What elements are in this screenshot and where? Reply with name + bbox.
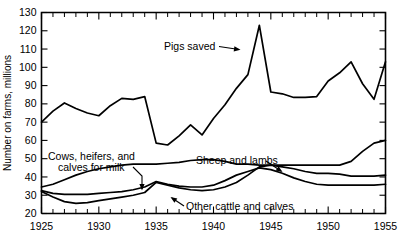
x-tick-label: 1925: [30, 220, 54, 232]
y-axis-title: Number on farms, millions: [2, 55, 13, 171]
x-tick-label: 1955: [374, 220, 398, 232]
y-tick-label: 70: [25, 116, 37, 128]
y-axis-title-text: Number on farms, millions: [2, 55, 13, 171]
line-chart: 2030405060708090100110120130192519301935…: [0, 0, 407, 247]
y-tick-label: 90: [25, 79, 37, 91]
annotation-other-cattle: Other cattle and calves: [186, 200, 293, 212]
y-tick-label: 110: [20, 43, 37, 55]
x-tick-label: 1940: [202, 220, 226, 232]
x-tick-label: 1935: [144, 220, 168, 232]
x-tick-label: 1945: [259, 220, 283, 232]
y-tick-label: 40: [25, 171, 37, 183]
x-tick-label: 1930: [87, 220, 111, 232]
annotation-sheep-and-lambs: Sheep and lambs: [196, 154, 278, 166]
annotation-arrowhead: [171, 197, 178, 203]
y-tick-label: 20: [25, 207, 37, 219]
y-tick-label: 100: [19, 61, 37, 73]
series-group: [42, 25, 386, 203]
y-tick-label: 50: [25, 152, 37, 164]
y-tick-label: 60: [25, 134, 37, 146]
y-tick-label: 80: [25, 97, 37, 109]
chart-figure: 2030405060708090100110120130192519301935…: [0, 0, 407, 247]
x-tick-label: 1950: [316, 220, 340, 232]
annotation-arrowhead: [234, 46, 241, 51]
annotation-pigs-saved: Pigs saved: [164, 40, 216, 52]
y-tick-label: 130: [19, 6, 37, 18]
annotation-cows-line2: calves for milk: [58, 161, 125, 173]
y-tick-label: 120: [19, 24, 37, 36]
y-tick-label: 30: [25, 189, 37, 201]
